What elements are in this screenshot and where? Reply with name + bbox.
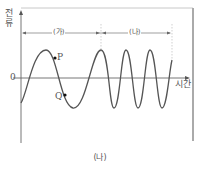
point-p-label: P	[57, 53, 63, 62]
x-axis-label: 시간	[175, 80, 191, 89]
graph-svg	[0, 0, 200, 175]
y-axis-arrow-icon	[19, 10, 23, 15]
point-q-label: Q	[55, 92, 62, 101]
dim-arrow-mid-right-icon	[102, 32, 106, 35]
dim-arrow-right-icon	[167, 32, 171, 35]
current-waveform	[21, 50, 172, 108]
segment-label-b: (나)	[128, 29, 141, 36]
current-time-graph: 전류 0 시간 (가) (나) P Q (나)	[0, 0, 200, 175]
figure-caption: (나)	[0, 154, 200, 162]
point-q-dot	[63, 93, 66, 96]
y-axis-label: 전류	[4, 8, 14, 28]
origin-label: 0	[10, 73, 16, 82]
dim-arrow-mid-left-icon	[96, 32, 100, 35]
segment-label-a: (가)	[52, 29, 65, 36]
dim-arrow-left-icon	[22, 32, 26, 35]
